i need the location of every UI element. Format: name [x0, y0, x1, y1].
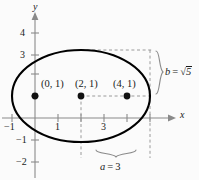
point-label-4-1: (4, 1)	[113, 79, 136, 90]
semi-minor-radicand: 5	[186, 66, 192, 78]
semi-minor-annotation: b=√5	[165, 66, 192, 78]
semi-minor-equals: =	[172, 66, 178, 77]
semi-major-variable: a	[100, 161, 105, 172]
semi-major-equals: =	[107, 161, 113, 172]
y-tick-label--1: −1	[16, 135, 27, 145]
x-axis-arrow	[168, 115, 176, 122]
semi-major-value: 3	[115, 161, 120, 172]
x-tick-label--1: −1	[4, 122, 15, 132]
point-marker-0-1	[32, 93, 39, 100]
brace-b	[156, 51, 163, 94]
ellipse-figure: y x −1 1 3 4 3 −1 −2 (0, 1) (2, 1) (4, 1…	[0, 0, 199, 180]
brace-a	[96, 150, 136, 157]
point-label-0-1: (0, 1)	[41, 79, 64, 90]
y-axis-arrow	[32, 12, 39, 20]
point-marker-4-1	[124, 93, 131, 100]
point-label-2-1: (2, 1)	[75, 79, 98, 90]
y-axis-label: y	[33, 2, 37, 12]
figure-canvas	[0, 0, 199, 180]
semi-major-annotation: a=3	[100, 162, 120, 173]
x-tick-label-3: 3	[101, 122, 106, 132]
semi-minor-variable: b	[165, 66, 170, 77]
y-tick-label--2: −2	[16, 157, 27, 167]
x-axis-label: x	[180, 110, 184, 120]
point-marker-2-1	[78, 93, 85, 100]
y-tick-label-4: 4	[20, 28, 25, 38]
x-tick-label-1: 1	[55, 122, 60, 132]
y-tick-label-3: 3	[20, 50, 25, 60]
